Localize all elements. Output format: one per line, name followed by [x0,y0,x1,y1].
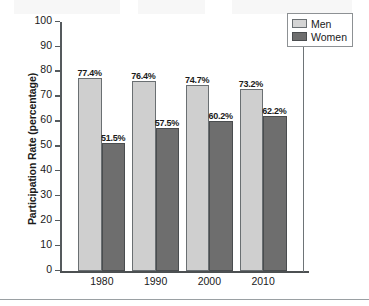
y-tick-label: 20 [22,213,52,225]
y-tick-label: 0 [22,263,52,275]
bar-value-label: 74.7% [185,75,210,85]
bar-men-1990: 76.4% [132,81,156,271]
bar-value-label: 51.5% [101,133,126,143]
bar-value-label: 73.2% [239,79,264,89]
x-axis-line [60,271,309,273]
bar-value-label: 76.4% [131,71,156,81]
y-tick: 0 [55,270,60,271]
y-tick: 30 [55,195,60,196]
legend-item-women: Women [292,30,347,43]
y-tick-label: 80 [22,63,52,75]
bar-men-2010: 73.2% [240,89,264,271]
y-tick: 40 [55,170,60,171]
y-tick-label: 100 [22,14,52,26]
bar-value-label: 77.4% [77,68,102,78]
page-divider [0,299,369,300]
legend-item-men: Men [292,17,347,30]
y-tick: 20 [55,220,60,221]
y-tick-label: 40 [22,163,52,175]
bar-women-2000: 60.2% [209,121,233,271]
bar-men-2000: 74.7% [186,85,210,271]
bar-women-1990: 57.5% [156,128,180,271]
y-tick: 50 [55,145,60,146]
y-tick-label: 50 [22,138,52,150]
plot-area: 0102030405060708090100 77.4%51.5%76.4%57… [60,22,303,271]
bar-value-label: 62.2% [262,106,287,116]
y-tick-label: 90 [22,39,52,51]
bar-chart: Participation Rate (percentage) 01020304… [0,0,369,306]
y-axis-line [60,22,62,271]
bar-value-label: 60.2% [208,111,233,121]
y-tick-label: 10 [22,238,52,250]
y-tick: 70 [55,95,60,96]
bar-women-2010: 62.2% [263,116,287,271]
y-tick-label: 30 [22,188,52,200]
legend: Men Women [287,13,353,47]
legend-label-women: Women [311,31,347,43]
bar-women-1980: 51.5% [102,143,126,271]
legend-swatch-men-icon [292,19,307,28]
legend-swatch-women-icon [292,32,307,41]
y-tick: 90 [55,46,60,47]
legend-label-men: Men [311,18,331,30]
plot-right-border [303,22,304,272]
bar-men-1980: 77.4% [78,78,102,271]
y-tick-label: 70 [22,88,52,100]
y-tick: 10 [55,245,60,246]
y-tick: 80 [55,70,60,71]
scan-artifact [0,0,369,14]
bar-value-label: 57.5% [155,118,180,128]
y-tick-label: 60 [22,113,52,125]
x-tick-label-2010: 2010 [232,275,295,287]
y-tick: 60 [55,120,60,121]
y-tick: 100 [55,21,60,22]
